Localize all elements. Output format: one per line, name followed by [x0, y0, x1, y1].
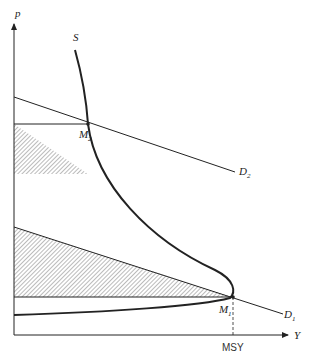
m1-label: M 1 — [218, 303, 232, 318]
supply-label: S — [73, 31, 79, 43]
d1-label-sub: 1 — [292, 315, 296, 323]
surplus-area-upper — [14, 124, 88, 174]
x-axis-label: Y — [294, 329, 302, 341]
d1-label-main: D — [283, 308, 292, 320]
d2-label: D 2 — [238, 165, 251, 180]
d2-label-sub: 2 — [247, 172, 251, 180]
d1-label: D 1 — [283, 308, 296, 323]
y-axis-label: p — [14, 7, 21, 19]
m1-label-sub: 1 — [228, 310, 232, 318]
d2-label-main: D — [238, 165, 247, 177]
point-m2 — [86, 122, 90, 126]
m2-label-sub: 2 — [88, 135, 92, 143]
diagram-canvas: p Y S D 2 D 1 M 2 M 1 MSY — [0, 0, 313, 357]
msy-label: MSY — [222, 342, 244, 353]
point-m1 — [231, 295, 235, 299]
